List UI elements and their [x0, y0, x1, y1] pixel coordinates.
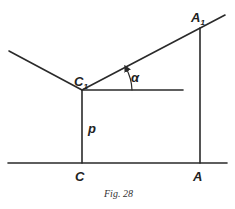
label-a: A — [192, 169, 202, 184]
left-slope-line — [9, 51, 82, 90]
label-a1: A1 — [190, 10, 205, 27]
label-c: C — [75, 169, 85, 184]
geometry-diagram: C1 A1 α p C A Fig. 28 — [0, 0, 235, 209]
label-p: p — [87, 121, 96, 136]
label-alpha: α — [131, 70, 140, 85]
figure-caption: Fig. 28 — [103, 188, 133, 199]
label-c1: C1 — [74, 74, 88, 91]
